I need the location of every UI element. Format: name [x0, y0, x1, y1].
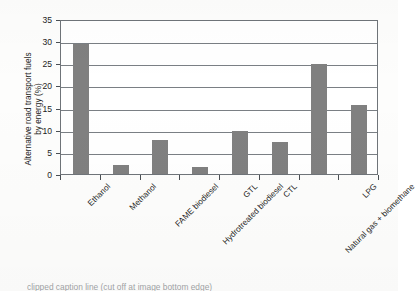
y-tick-label-30: 30 [22, 37, 52, 47]
x-axis-label-fame-biodiesel: FAME biodiesel [174, 182, 221, 229]
bar-methanol [113, 165, 129, 174]
y-tick-label-15: 15 [22, 104, 52, 114]
gridline-15 [61, 110, 377, 111]
x-tick-0 [60, 175, 61, 180]
x-axis-label-natural-gas-biomethane: Natural gas + biomethane [344, 182, 417, 255]
gridline-5 [61, 154, 377, 155]
x-tick-7 [338, 175, 339, 180]
bar-natural-gas-biomethane [311, 64, 327, 174]
gridline-20 [61, 87, 377, 88]
figure-caption-clipped: clipped caption line (cut off at image b… [27, 283, 387, 291]
x-axis-label-methanol: Methanol [127, 182, 157, 212]
gridline-25 [61, 65, 377, 66]
y-tick-label-25: 25 [22, 59, 52, 69]
x-axis-label-ctl: CTL [281, 182, 298, 199]
x-axis-label-lpg: LPG [361, 182, 379, 200]
bar-hydrotreated-biodiesel [192, 167, 208, 174]
figure-caption-text: clipped caption line (cut off at image b… [27, 283, 212, 291]
bar-ctl [272, 142, 288, 174]
y-tick-label-20: 20 [22, 81, 52, 91]
gridline-10 [61, 132, 377, 133]
x-tick-4 [219, 175, 220, 180]
x-tick-6 [299, 175, 300, 180]
y-tick-label-35: 35 [22, 15, 52, 25]
bar-fame-biodiesel [152, 140, 168, 174]
bar-ethanol [73, 44, 89, 174]
y-tick-label-0: 0 [22, 170, 52, 180]
x-tick-1 [100, 175, 101, 180]
x-axis-label-gtl: GTL [242, 182, 260, 200]
x-tick-8 [378, 175, 379, 180]
gridline-30 [61, 43, 377, 44]
x-tick-5 [259, 175, 260, 180]
plot-area [60, 20, 378, 175]
y-tick-label-5: 5 [22, 148, 52, 158]
x-tick-3 [179, 175, 180, 180]
bar-lpg [351, 105, 367, 174]
x-axis-label-ethanol: Ethanol [86, 182, 112, 208]
bar-gtl [232, 131, 248, 174]
y-tick-label-10: 10 [22, 126, 52, 136]
x-tick-2 [140, 175, 141, 180]
